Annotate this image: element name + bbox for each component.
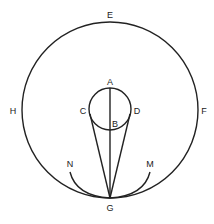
- line-cg: [90, 114, 110, 198]
- label-c: C: [80, 106, 87, 116]
- label-e: E: [107, 10, 113, 20]
- label-b: B: [112, 119, 118, 129]
- label-h: H: [10, 106, 17, 116]
- label-g: G: [106, 203, 113, 213]
- label-a: A: [107, 77, 113, 87]
- arc-m: [110, 172, 150, 198]
- label-n: N: [67, 159, 74, 169]
- arc-n: [70, 172, 110, 198]
- diagram-canvas: E H F A C D B N M G: [0, 0, 214, 224]
- label-f: F: [201, 106, 207, 116]
- label-m: M: [146, 159, 154, 169]
- label-d: D: [134, 106, 141, 116]
